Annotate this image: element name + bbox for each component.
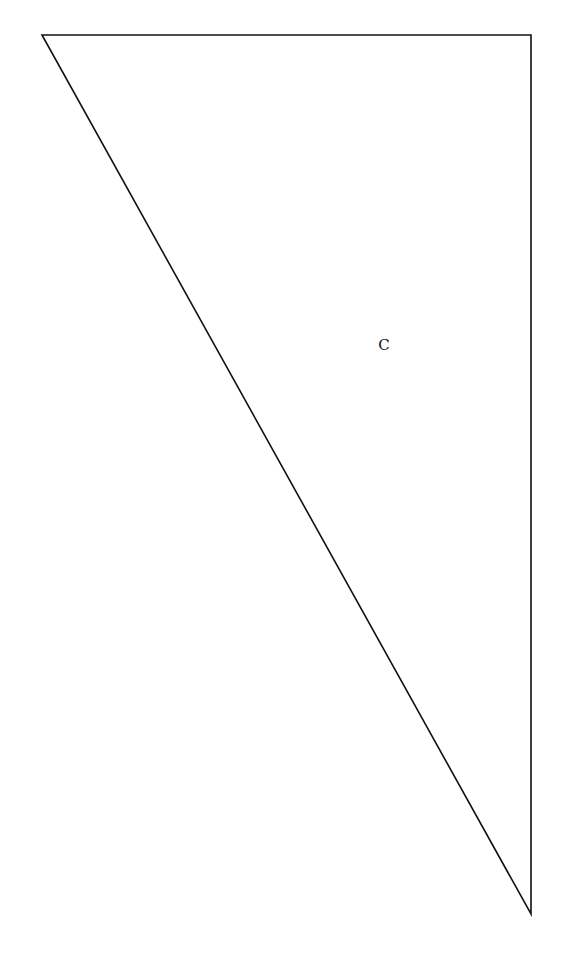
diagram-canvas: C (0, 0, 570, 955)
triangle-figure (0, 0, 570, 955)
region-label: C (378, 336, 389, 354)
triangle-shape (42, 35, 531, 914)
